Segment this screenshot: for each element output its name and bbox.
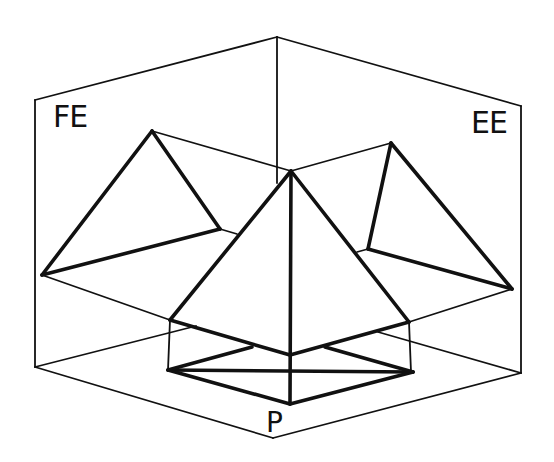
projector-fe-left [42, 275, 170, 320]
box-bottom-left-edge [35, 367, 273, 438]
pyramid-axis [290, 171, 291, 404]
plan-front-left-edge [168, 370, 290, 404]
fe-triangle-right-edge [152, 131, 220, 229]
projector-ee-apex [291, 143, 391, 171]
pyramid-right-edge [291, 171, 409, 322]
box-bottom-right-edge [273, 373, 521, 438]
pyramid-left-edge [170, 171, 291, 320]
projector-plan-right [409, 322, 411, 372]
box-top-right-edge [277, 37, 521, 106]
pyramid-projection-diagram [0, 0, 554, 462]
front-elevation-label: FE [53, 102, 87, 132]
pyramid-base-left-edge [170, 320, 290, 355]
plan-front-right-edge [290, 372, 413, 404]
fe-triangle-base [42, 229, 220, 275]
ee-triangle-base [368, 249, 512, 289]
projector-fe-apex [152, 131, 291, 171]
end-elevation-label: EE [471, 108, 507, 138]
ee-triangle-right-edge [391, 143, 512, 289]
projector-ee-right [409, 289, 512, 322]
box-top-left-edge [35, 37, 277, 100]
construction-lines [35, 37, 521, 438]
projector-fe-right [220, 229, 237, 234]
plan-diagonal [168, 370, 413, 372]
plan-back-left-edge [168, 347, 252, 370]
projector-box-left-floor [35, 326, 196, 367]
ee-triangle-left-edge [368, 143, 391, 249]
fe-triangle-left-edge [42, 131, 152, 275]
plan-back-right-edge [325, 347, 413, 372]
plan-label: P [266, 409, 282, 437]
projector-plan-left [168, 320, 170, 370]
pyramid-base-right-edge [290, 322, 409, 355]
